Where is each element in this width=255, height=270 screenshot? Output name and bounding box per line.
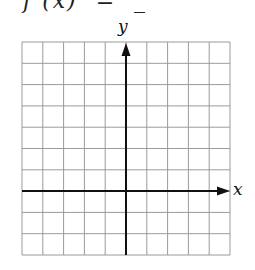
x-axis-label: x [233, 179, 243, 199]
y-axis-arrow-icon [122, 43, 131, 56]
x-axis-arrow-icon [217, 187, 230, 196]
coordinate-grid [0, 0, 255, 270]
y-axis-label: y [118, 16, 128, 36]
